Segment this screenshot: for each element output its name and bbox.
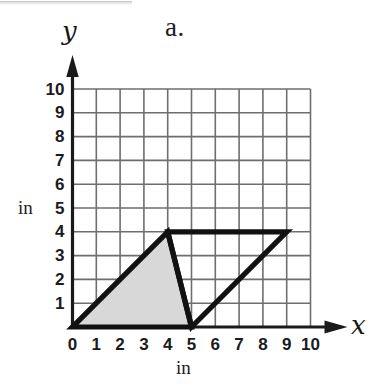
coordinate-plane-plot (0, 0, 387, 391)
y-tick-label: 8 (39, 128, 65, 145)
x-tick-label: 5 (179, 336, 205, 353)
y-tick-label: 3 (39, 247, 65, 264)
y-tick-label: 9 (39, 104, 65, 121)
x-tick-label: 9 (274, 336, 300, 353)
x-tick-label: 2 (107, 336, 133, 353)
y-tick-label: 1 (39, 295, 65, 312)
y-tick-label: 6 (39, 176, 65, 193)
x-tick-label: 6 (202, 336, 228, 353)
y-tick-label: 2 (39, 271, 65, 288)
y-tick-label: 7 (39, 152, 65, 169)
y-axis-arrowhead-icon (66, 55, 78, 77)
x-tick-label: 8 (250, 336, 276, 353)
y-tick-label: 4 (39, 223, 65, 240)
x-axis-arrowhead-icon (325, 320, 348, 333)
x-tick-label: 3 (131, 336, 157, 353)
x-tick-label: 7 (226, 336, 252, 353)
x-tick-label: 1 (83, 336, 109, 353)
x-tick-label: 0 (60, 336, 86, 353)
y-tick-label: 10 (39, 81, 65, 98)
x-tick-label: 4 (155, 336, 181, 353)
x-tick-label: 10 (298, 336, 324, 353)
y-tick-label: 5 (39, 200, 65, 217)
figure-canvas: a. y x in in 12345678910 012345678910 (0, 0, 387, 391)
